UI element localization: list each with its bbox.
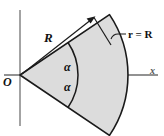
figure-container: R O x r = R α α — [0, 0, 164, 136]
sector-diagram — [0, 0, 164, 136]
radius-label: R — [44, 31, 53, 44]
angle-label-upper: α — [64, 61, 71, 73]
origin-label: O — [3, 76, 12, 88]
x-axis-label: x — [150, 66, 155, 76]
angle-label-lower: α — [64, 81, 71, 93]
arc-equation-label: r = R — [128, 29, 152, 40]
